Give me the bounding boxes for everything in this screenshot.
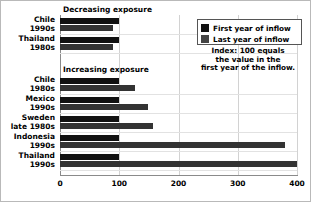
group-title-increasing: Increasing exposure <box>63 65 149 74</box>
legend-label-last-year: Last year of inflow <box>213 35 289 44</box>
bar-last-year <box>60 123 153 129</box>
bar-first-year <box>60 18 119 24</box>
chart-note-line-3: first year of the inflow. <box>187 64 309 73</box>
bar-row <box>60 115 297 134</box>
bar-row <box>60 77 297 96</box>
bar-row <box>60 134 297 153</box>
category-label-period: 1990s <box>19 161 55 170</box>
group-title-decreasing: Decreasing exposure <box>63 5 152 14</box>
chart-legend: First year of inflow Last year of inflow <box>197 19 302 45</box>
bar-last-year <box>60 44 113 50</box>
bar-chart: Chile1990sThailand1980sChile1980sMexico1… <box>0 0 311 202</box>
bar-first-year <box>60 135 119 141</box>
x-axis-line <box>60 175 298 176</box>
category-label: Thailand1990s <box>19 152 55 169</box>
chart-note: Index: 100 equals the value in the first… <box>187 47 309 73</box>
bar-first-year <box>60 97 119 103</box>
x-axis-tick-label: 200 <box>171 179 187 188</box>
x-axis-tick-label: 100 <box>111 179 127 188</box>
legend-swatch-last-year <box>201 35 209 43</box>
x-axis-tick-label: 300 <box>230 179 246 188</box>
legend-label-first-year: First year of inflow <box>213 24 291 33</box>
category-label-period: 1980s <box>19 44 55 53</box>
x-axis-tick-label: 400 <box>289 179 305 188</box>
legend-item-first-year: First year of inflow <box>201 23 298 33</box>
bar-last-year <box>60 85 135 91</box>
category-label-period: 1990s <box>14 142 55 151</box>
category-label-period: 1980s <box>30 85 55 94</box>
bar-row <box>60 153 297 172</box>
legend-swatch-first-year <box>201 24 209 32</box>
category-label: Swedenlate 1980s <box>11 114 55 131</box>
category-label-period: late 1980s <box>11 123 55 132</box>
bar-first-year <box>60 116 119 122</box>
bar-first-year <box>60 78 119 84</box>
category-label: Indonesia1990s <box>14 133 55 150</box>
category-label-period: 1990s <box>25 104 55 113</box>
category-label: Chile1990s <box>30 16 55 33</box>
category-label: Mexico1990s <box>25 95 55 112</box>
category-label: Chile1980s <box>30 76 55 93</box>
bar-row <box>60 96 297 115</box>
category-label-period: 1990s <box>30 25 55 34</box>
bar-last-year <box>60 161 297 167</box>
bar-last-year <box>60 104 148 110</box>
bar-last-year <box>60 142 285 148</box>
category-label: Thailand1980s <box>19 35 55 52</box>
bar-last-year <box>60 25 113 31</box>
legend-item-last-year: Last year of inflow <box>201 34 298 44</box>
x-axis-tick-label: 0 <box>57 179 62 188</box>
bar-first-year <box>60 37 119 43</box>
bar-first-year <box>60 154 119 160</box>
